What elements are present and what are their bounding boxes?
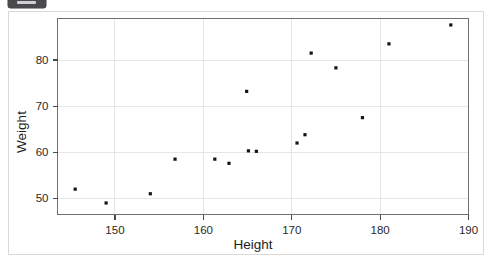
y-tick-label: 50 (36, 192, 49, 204)
y-tick-labels: 50607080 (36, 54, 49, 204)
data-point (361, 116, 364, 119)
x-tick-label: 150 (105, 224, 124, 236)
y-tick-label: 70 (36, 100, 49, 112)
y-axis-ticks (53, 60, 58, 198)
x-axis-ticks (115, 215, 469, 220)
y-tick-label: 80 (36, 54, 49, 66)
data-point (213, 158, 216, 161)
data-point (255, 150, 258, 153)
x-axis-title: Height (233, 237, 272, 252)
data-point (245, 90, 248, 93)
data-point (149, 192, 152, 195)
data-point (334, 66, 337, 69)
axis-frame (58, 19, 469, 215)
data-point (74, 188, 77, 191)
scatter-plot: 150160170180190 50607080 Height Weight (0, 0, 492, 267)
data-point (449, 23, 452, 26)
gridlines-horizontal (58, 60, 469, 198)
data-point (310, 51, 313, 54)
data-point (173, 158, 176, 161)
plot-frame (58, 19, 469, 215)
x-tick-labels: 150160170180190 (105, 224, 478, 236)
data-point (387, 42, 390, 45)
gridlines-vertical (115, 19, 469, 215)
y-tick-label: 60 (36, 146, 49, 158)
x-tick-label: 170 (282, 224, 301, 236)
data-point (105, 201, 108, 204)
data-point (247, 149, 250, 152)
x-tick-label: 180 (371, 224, 390, 236)
data-point (295, 141, 298, 144)
data-point (303, 133, 306, 136)
y-axis-title: Weight (14, 111, 29, 153)
x-tick-label: 190 (459, 224, 478, 236)
data-point (227, 162, 230, 165)
data-points (74, 23, 453, 204)
x-tick-label: 160 (194, 224, 213, 236)
